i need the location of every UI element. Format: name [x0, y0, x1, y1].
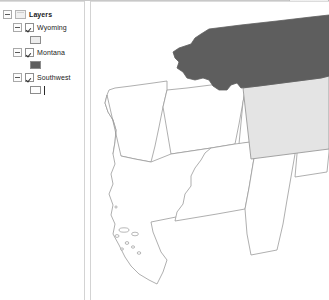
layer-symbol-row-montana[interactable]: [3, 59, 84, 71]
map-canvas[interactable]: [91, 2, 329, 300]
expander-minus-icon[interactable]: [13, 23, 22, 32]
layer-label-wyoming: Wyoming: [37, 23, 67, 32]
polygon-swatch-icon-southwest[interactable]: [30, 86, 41, 94]
sidebar-item-southwest[interactable]: Southwest: [3, 71, 84, 84]
layer-visibility-checkbox-southwest[interactable]: [25, 73, 34, 82]
tree-node-layers[interactable]: Layers: [3, 8, 84, 21]
map-feature-nevada[interactable]: [163, 81, 247, 154]
expander-minus-icon[interactable]: [3, 10, 12, 19]
map-feature-wyoming[interactable]: [243, 76, 329, 159]
text-cursor-caret: [44, 86, 45, 95]
sidebar-item-montana[interactable]: Montana: [3, 46, 84, 59]
polygon-swatch-icon-montana[interactable]: [30, 61, 41, 69]
expander-minus-icon[interactable]: [13, 48, 22, 57]
application-window: Layers Wyoming Montana: [0, 0, 329, 300]
panel-splitter[interactable]: [84, 1, 91, 300]
map-feature-montana[interactable]: [173, 15, 329, 90]
map-layer-wyoming[interactable]: [243, 76, 329, 159]
layer-visibility-checkbox-montana[interactable]: [25, 48, 34, 57]
layer-visibility-checkbox-wyoming[interactable]: [25, 23, 34, 32]
sidebar-item-wyoming[interactable]: Wyoming: [3, 21, 84, 34]
polygon-swatch-icon-wyoming[interactable]: [30, 36, 41, 44]
layers-icon: [15, 10, 26, 19]
layer-tree: Layers Wyoming Montana: [0, 2, 84, 96]
map-view[interactable]: [91, 1, 329, 300]
table-of-contents-panel[interactable]: Layers Wyoming Montana: [0, 1, 84, 300]
map-layer-montana[interactable]: [173, 15, 329, 90]
tree-node-layers-label: Layers: [29, 10, 52, 19]
layer-label-southwest: Southwest: [37, 73, 71, 82]
layer-symbol-row-southwest[interactable]: [3, 84, 84, 96]
expander-minus-icon[interactable]: [13, 73, 22, 82]
layer-symbol-row-wyoming[interactable]: [3, 34, 84, 46]
layer-label-montana: Montana: [37, 48, 65, 57]
